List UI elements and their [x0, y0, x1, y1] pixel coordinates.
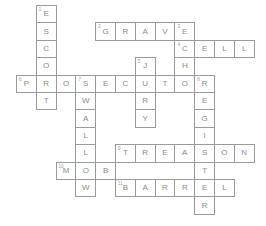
- grid-cell[interactable]: N: [234, 144, 255, 162]
- grid-cell[interactable]: Y: [135, 109, 156, 127]
- cell-letter: A: [143, 184, 148, 192]
- grid-cell[interactable]: R: [115, 22, 136, 40]
- grid-cell[interactable]: L: [214, 179, 235, 197]
- grid-cell[interactable]: W: [75, 92, 96, 110]
- cell-letter: R: [142, 97, 148, 105]
- cell-letter: L: [84, 149, 88, 157]
- cell-letter: I: [203, 132, 205, 140]
- cell-letter: R: [142, 149, 148, 157]
- grid-cell[interactable]: C: [115, 75, 136, 93]
- cell-letter: E: [103, 80, 108, 88]
- grid-cell[interactable]: R: [36, 75, 57, 93]
- grid-cell[interactable]: 1E: [36, 5, 57, 23]
- cell-letter: T: [44, 97, 49, 105]
- grid-cell[interactable]: A: [135, 22, 156, 40]
- grid-cell[interactable]: 6P: [16, 75, 37, 93]
- clue-number: 3: [177, 25, 180, 30]
- cell-letter: S: [44, 28, 49, 36]
- cell-letter: G: [201, 115, 207, 123]
- grid-cell[interactable]: O: [56, 75, 77, 93]
- cell-letter: O: [182, 80, 188, 88]
- grid-cell[interactable]: S: [36, 22, 57, 40]
- cell-letter: L: [242, 45, 246, 53]
- cell-letter: R: [182, 184, 188, 192]
- grid-cell[interactable]: G: [194, 109, 215, 127]
- grid-cell[interactable]: L: [234, 40, 255, 58]
- grid-cell[interactable]: 5J: [135, 57, 156, 75]
- crossword-grid: 1ESCORT2GRAV3E4CHOELL5JURY6PO7SECT8RWALL…: [0, 0, 266, 226]
- grid-cell[interactable]: E: [155, 144, 176, 162]
- cell-letter: R: [162, 184, 168, 192]
- cell-letter: P: [24, 80, 29, 88]
- grid-cell[interactable]: E: [95, 75, 116, 93]
- grid-cell[interactable]: L: [75, 144, 96, 162]
- grid-cell[interactable]: R: [135, 144, 156, 162]
- cell-letter: T: [202, 167, 207, 175]
- grid-cell[interactable]: W: [75, 179, 96, 197]
- cell-letter: A: [83, 115, 88, 123]
- cell-letter: Y: [143, 115, 148, 123]
- grid-cell[interactable]: L: [75, 127, 96, 145]
- grid-cell[interactable]: B: [95, 162, 116, 180]
- grid-cell[interactable]: R: [135, 92, 156, 110]
- clue-number: 7: [78, 78, 81, 83]
- grid-cell[interactable]: 2G: [95, 22, 116, 40]
- cell-letter: R: [43, 80, 49, 88]
- cell-letter: S: [83, 80, 88, 88]
- grid-cell[interactable]: S: [194, 144, 215, 162]
- grid-cell[interactable]: C: [36, 40, 57, 58]
- grid-cell[interactable]: E: [194, 179, 215, 197]
- grid-cell[interactable]: A: [174, 144, 195, 162]
- grid-cell[interactable]: 7S: [75, 75, 96, 93]
- cell-letter: E: [182, 28, 187, 36]
- cell-letter: O: [221, 149, 227, 157]
- cell-letter: C: [123, 80, 129, 88]
- grid-cell[interactable]: E: [194, 40, 215, 58]
- cell-letter: E: [162, 149, 167, 157]
- clue-number: 6: [19, 78, 22, 83]
- grid-cell[interactable]: 11B: [115, 179, 136, 197]
- cell-letter: L: [222, 184, 226, 192]
- grid-cell[interactable]: 3E: [174, 22, 195, 40]
- cell-letter: L: [222, 45, 226, 53]
- grid-cell[interactable]: U: [135, 75, 156, 93]
- grid-cell[interactable]: 8R: [194, 75, 215, 93]
- grid-cell[interactable]: L: [214, 40, 235, 58]
- grid-cell[interactable]: H: [174, 57, 195, 75]
- cell-letter: G: [102, 28, 108, 36]
- cell-letter: E: [202, 97, 207, 105]
- cell-letter: T: [163, 80, 168, 88]
- grid-cell[interactable]: E: [194, 92, 215, 110]
- grid-cell[interactable]: 4C: [174, 40, 195, 58]
- cell-letter: J: [143, 62, 147, 70]
- grid-cell[interactable]: R: [155, 179, 176, 197]
- cell-letter: H: [182, 62, 188, 70]
- grid-cell[interactable]: O: [75, 162, 96, 180]
- cell-letter: O: [83, 167, 89, 175]
- grid-cell[interactable]: I: [194, 127, 215, 145]
- grid-cell[interactable]: O: [174, 75, 195, 93]
- cell-letter: W: [82, 97, 90, 105]
- grid-cell[interactable]: T: [36, 92, 57, 110]
- grid-cell[interactable]: V: [155, 22, 176, 40]
- clue-number: 9: [118, 147, 121, 152]
- grid-cell[interactable]: A: [75, 109, 96, 127]
- cell-letter: A: [143, 28, 148, 36]
- grid-cell[interactable]: R: [194, 196, 215, 214]
- clue-number: 8: [197, 78, 200, 83]
- grid-cell[interactable]: 10M: [56, 162, 77, 180]
- grid-cell[interactable]: T: [155, 75, 176, 93]
- grid-cell[interactable]: T: [194, 162, 215, 180]
- clue-number: 11: [118, 182, 123, 187]
- cell-letter: O: [43, 62, 49, 70]
- cell-letter: R: [202, 80, 208, 88]
- cell-letter: T: [123, 149, 128, 157]
- grid-cell[interactable]: R: [174, 179, 195, 197]
- grid-cell[interactable]: A: [135, 179, 156, 197]
- grid-cell[interactable]: O: [214, 144, 235, 162]
- grid-cell[interactable]: 9T: [115, 144, 136, 162]
- clue-number: 1: [39, 8, 42, 13]
- cell-letter: V: [162, 28, 167, 36]
- cell-letter: U: [142, 80, 148, 88]
- grid-cell[interactable]: O: [36, 57, 57, 75]
